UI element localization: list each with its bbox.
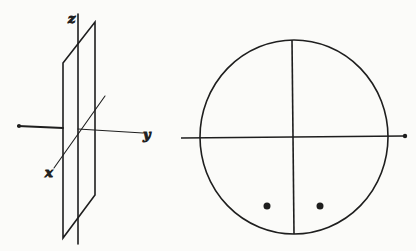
vertical-diameter <box>292 40 294 234</box>
dot-left <box>264 203 271 210</box>
dot-right <box>317 203 324 210</box>
y-axis-left-part <box>18 126 63 128</box>
horizontal-line-end-dot <box>403 134 407 138</box>
x-axis <box>54 96 105 168</box>
y-axis <box>78 129 143 133</box>
figure-canvas: z y x <box>0 0 416 251</box>
z-axis-label: z <box>67 11 76 26</box>
right-circle-diagram <box>181 40 407 234</box>
y-axis-label: y <box>142 127 152 142</box>
left-3d-axes-diagram: z y x <box>17 11 152 244</box>
x-axis-label: x <box>44 165 53 180</box>
y-axis-end-dot <box>17 124 21 128</box>
